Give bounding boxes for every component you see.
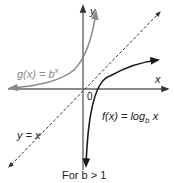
logarithm-label-var: x [153,110,159,122]
exponential-label: g(x) = bx [17,67,59,80]
y-axis-label: y [90,6,96,17]
caption: For b > 1 [62,170,106,181]
logarithm-label: f(x) = logb x [102,111,158,125]
origin-label: 0 [87,92,93,102]
exponential-label-exponent: x [55,66,59,75]
logarithm-label-text: f(x) = log [102,110,145,122]
identity-label: y = x [17,130,41,141]
exponential-label-text: g(x) = b [17,68,55,80]
x-axis-label: x [155,74,161,85]
logarithm-label-base: b [145,116,149,125]
